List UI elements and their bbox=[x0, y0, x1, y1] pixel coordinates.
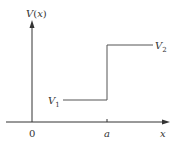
step-position-label: a bbox=[104, 128, 110, 139]
y-axis-arrow-icon bbox=[30, 20, 35, 28]
v1-label: V1 bbox=[48, 95, 60, 109]
x-axis-label: x bbox=[160, 128, 166, 139]
v2-label: V2 bbox=[155, 40, 167, 54]
x-axis-arrow-icon bbox=[162, 120, 170, 125]
potential-step-line bbox=[63, 45, 153, 100]
step-potential-diagram: V(x) V1 V2 0 a x bbox=[0, 0, 178, 145]
y-axis-label: V(x) bbox=[26, 8, 47, 19]
origin-label: 0 bbox=[29, 128, 35, 139]
